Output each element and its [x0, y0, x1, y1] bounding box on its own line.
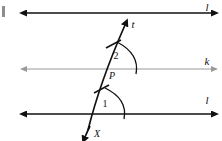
middle-line-label: k — [205, 55, 211, 67]
geometry-canvas: l k l t P X 2 1 — [0, 0, 222, 141]
top-line-label: l — [205, 1, 208, 13]
point-P-label: P — [108, 70, 115, 81]
transversal-label: t — [131, 18, 135, 30]
transversal-lower-tail — [85, 126, 90, 137]
bottom-line-label: l — [205, 94, 208, 106]
tick-upper-mark — [106, 40, 121, 48]
geometry-diagram: l k l t P X 2 1 — [0, 0, 222, 141]
point-X-label: X — [93, 128, 101, 139]
angle-2-label: 2 — [114, 50, 119, 61]
angle-1-label: 1 — [103, 98, 108, 109]
